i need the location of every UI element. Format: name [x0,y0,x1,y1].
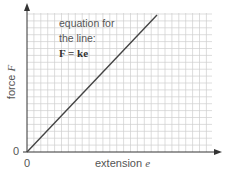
grid [27,13,212,152]
annotation-line-2: the line: [59,31,114,46]
x-axis-label: extension e [95,157,150,169]
y-axis-arrow-icon [24,3,30,11]
equation-text: F = ke [59,46,114,61]
annotation-line-1: equation for [59,16,114,31]
chart-canvas [0,0,229,173]
y-origin-label: 0 [13,145,19,157]
annotation: equation for the line: F = ke [59,16,114,61]
x-origin-label: 0 [24,157,30,169]
x-axis-arrow-icon [214,149,222,155]
y-axis-label: force F [5,65,17,99]
